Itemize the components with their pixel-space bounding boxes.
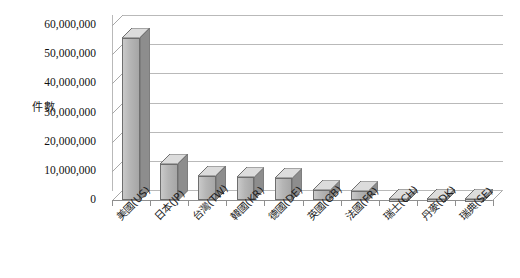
- gridline: [122, 15, 503, 16]
- x-axis-tick: [150, 200, 151, 206]
- bar-top-face: [198, 166, 226, 178]
- x-axis-tick: [226, 200, 227, 206]
- bar: [122, 28, 140, 200]
- bar-top-face: [160, 154, 188, 166]
- x-axis-tick: [379, 200, 380, 206]
- bar-top-face: [237, 167, 265, 179]
- x-axis-tick: [264, 200, 265, 206]
- x-axis-tick: [341, 200, 342, 206]
- gridline: [122, 103, 503, 104]
- gridline: [122, 44, 503, 45]
- x-axis-tick: [455, 200, 456, 206]
- plot-area: [0, 0, 520, 278]
- bar-top-face: [122, 28, 150, 40]
- gridline: [122, 132, 503, 133]
- bar-chart: 件數 60,000,00050,000,00040,000,00030,000,…: [0, 0, 520, 278]
- gridline-connector: [112, 15, 124, 27]
- x-axis-tick: [493, 200, 494, 206]
- bar-front-face: [122, 38, 140, 200]
- x-axis-tick: [188, 200, 189, 206]
- gridline: [122, 73, 503, 74]
- bar-side-face: [140, 28, 150, 200]
- x-axis-tick: [112, 200, 113, 206]
- x-axis-tick: [417, 200, 418, 206]
- bar-top-face: [275, 168, 303, 180]
- x-axis-tick: [303, 200, 304, 206]
